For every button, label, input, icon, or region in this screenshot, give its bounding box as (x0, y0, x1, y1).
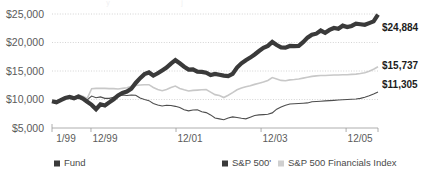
legend-label-1: S&P 500' (232, 157, 271, 168)
x-axis-tick-label: 12/03 (263, 133, 288, 144)
legend-swatch-2 (278, 161, 284, 167)
end-value-label: $24,884 (382, 22, 419, 33)
x-axis-tick-label: 12/05 (348, 133, 373, 144)
y-axis-tick-label: $25,000 (6, 8, 44, 20)
legend-label-2: S&P 500 Financials Index (288, 157, 397, 168)
x-axis-tick-label: 12/01 (178, 133, 203, 144)
cropped-title-remnant: j (180, 0, 183, 7)
y-axis-tick-label: $15,000 (6, 65, 44, 77)
end-value-label: $11,305 (382, 79, 418, 90)
end-value-label: $15,737 (382, 60, 419, 71)
legend-label-0: Fund (64, 157, 86, 168)
y-axis-tick-label: $5,000 (12, 122, 44, 134)
y-axis-tick-label: $20,000 (6, 36, 44, 48)
legend-swatch-0 (54, 161, 60, 167)
x-axis-tick-label: 1/99 (56, 133, 76, 144)
x-axis-tick-label: 12/99 (92, 133, 117, 144)
legend-swatch-1 (222, 161, 228, 167)
y-axis-tick-label: $10,000 (6, 93, 44, 105)
chart-canvas: yj$25,000$20,000$15,000$10,000$5,0001/99… (0, 0, 438, 183)
cropped-title-remnant: y (106, 0, 110, 7)
performance-line-chart: yj$25,000$20,000$15,000$10,000$5,0001/99… (0, 0, 438, 183)
